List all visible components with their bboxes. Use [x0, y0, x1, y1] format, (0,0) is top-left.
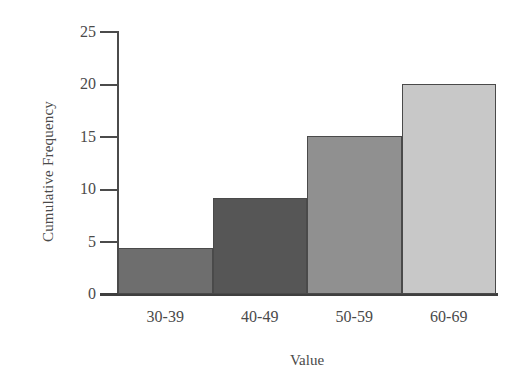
bar-40-49: [213, 198, 308, 294]
y-tick-label-25: 25: [56, 24, 96, 40]
y-tick-mark-20: [100, 84, 118, 86]
x-tick-label-40-49: 40-49: [213, 308, 308, 326]
x-tick-label-60-69: 60-69: [402, 308, 497, 326]
y-tick-label-20: 20: [56, 76, 96, 92]
x-axis-tick-labels: 30-39 40-49 50-59 60-69: [118, 308, 496, 334]
x-tick-label-30-39: 30-39: [118, 308, 213, 326]
bar-30-39: [118, 248, 213, 294]
y-axis-tick-labels: 25 20 15 10 5 0: [52, 0, 96, 390]
bar-60-69: [402, 84, 497, 294]
x-axis-title: Value: [118, 352, 496, 369]
y-tick-label-5: 5: [56, 234, 96, 250]
y-tick-label-0: 0: [56, 286, 96, 302]
y-tick-mark-25: [100, 31, 118, 33]
y-tick-label-10: 10: [56, 181, 96, 197]
cumulative-frequency-chart: Cumulative Frequency 25 20 15 10 5 0 30-…: [0, 0, 525, 390]
y-tick-mark-10: [100, 189, 118, 191]
x-tick-label-50-59: 50-59: [307, 308, 402, 326]
bar-50-59: [307, 136, 402, 294]
plot-area: [118, 31, 496, 294]
y-tick-label-15: 15: [56, 129, 96, 145]
y-tick-mark-15: [100, 136, 118, 138]
y-tick-mark-5: [100, 241, 118, 243]
